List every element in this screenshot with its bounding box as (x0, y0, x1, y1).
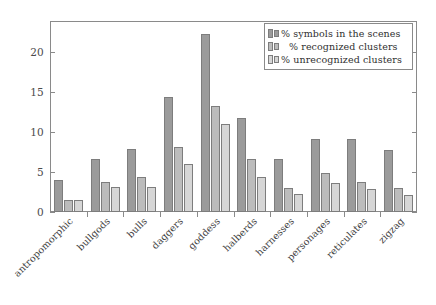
legend-label: % unrecognized clusters (281, 54, 402, 65)
bar (164, 97, 173, 212)
legend-label: % recognized clusters (281, 41, 398, 52)
bar (201, 34, 210, 212)
bar (111, 187, 120, 212)
legend-item-symbols-in-the-scenes[interactable]: % symbols in the scenes (268, 27, 408, 40)
bar (274, 159, 283, 212)
bar (367, 189, 376, 212)
bar (357, 182, 366, 212)
bar (257, 177, 266, 212)
bar (284, 188, 293, 212)
legend-item-recognized-clusters[interactable]: % recognized clusters (268, 40, 408, 53)
bar (127, 149, 136, 212)
bar (311, 139, 320, 212)
bar (74, 200, 83, 212)
legend-item-unrecognized-clusters[interactable]: % unrecognized clusters (268, 53, 408, 66)
bar (384, 150, 393, 212)
bar (147, 187, 156, 212)
bar (221, 124, 230, 212)
bar (404, 195, 413, 212)
bar (237, 118, 246, 212)
bar (54, 180, 63, 212)
bar (321, 173, 330, 212)
bar (174, 147, 183, 212)
bar (347, 139, 356, 212)
legend-swatch-icon (268, 55, 279, 64)
bar (247, 159, 256, 212)
bar (101, 182, 110, 212)
legend-swatch-icon (268, 42, 279, 51)
bar (184, 164, 193, 212)
bar-chart: 05101520 antropomorphicbullgodsbullsdagg… (0, 0, 436, 305)
legend-swatch-icon (268, 29, 279, 38)
legend: % symbols in the scenes % recognized clu… (264, 23, 413, 70)
bar (91, 159, 100, 212)
bar (64, 200, 73, 212)
bar (211, 106, 220, 212)
bar (294, 194, 303, 212)
bar (137, 177, 146, 212)
bar (331, 183, 340, 212)
bar (394, 188, 403, 212)
legend-label: % symbols in the scenes (281, 28, 401, 39)
